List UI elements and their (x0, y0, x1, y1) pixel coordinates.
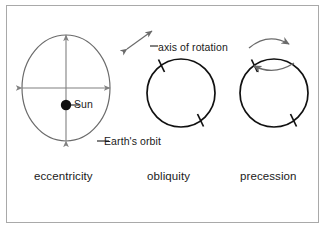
earth-circle-precession (240, 59, 308, 127)
sun-dot-icon (61, 100, 71, 110)
panel-label-eccentricity: eccentricity (34, 170, 93, 182)
obliquity-tilt-double-arrow (127, 31, 152, 49)
sun-annotation-label: Sun (74, 98, 93, 110)
panel-label-precession: precession (240, 170, 297, 182)
earth-circle-obliquity (147, 59, 215, 127)
panel-label-obliquity: obliquity (147, 170, 190, 182)
panel-eccentricity (22, 35, 110, 141)
earths-orbit-annotation-label: Earth's orbit (104, 135, 161, 147)
milankovitch-cycles-diagram: Sun Earth's orbit axis of rotation eccen… (0, 0, 325, 229)
precession-arrow-lower (254, 63, 294, 70)
precession-arrow-upper (249, 39, 289, 48)
panel-precession (240, 39, 308, 127)
axis-of-rotation-annotation-label: axis of rotation (158, 41, 228, 53)
diagram-canvas (0, 0, 325, 229)
